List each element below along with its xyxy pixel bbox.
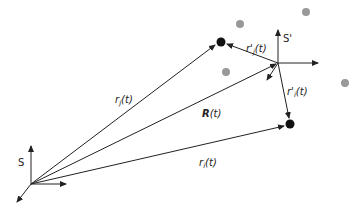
frame-s-axes [17,146,66,202]
frame-s-label: S [18,157,24,168]
particle-i [286,120,295,129]
gray-particle [236,20,244,28]
vector-R [31,64,276,184]
label-r-prime-j: r'j(t) [246,43,267,56]
gray-particle [222,68,230,76]
gray-particle [341,79,349,87]
frame-s-prime-axes [267,30,318,80]
label-r-j: rj(t) [115,94,133,107]
reference-frame-diagram: S S' rj(t) R(t) ri(t) r'j(t) r'i(t) [0,0,364,212]
particle-j [217,38,226,47]
gray-particle [302,8,310,16]
frame-s-prime-label: S' [283,33,292,44]
label-r-prime-i: r'i(t) [287,86,308,99]
background-particles [222,8,349,87]
label-R: R(t) [202,108,221,119]
label-r-i: ri(t) [199,157,217,170]
s-z-axis-arrow [17,184,31,202]
